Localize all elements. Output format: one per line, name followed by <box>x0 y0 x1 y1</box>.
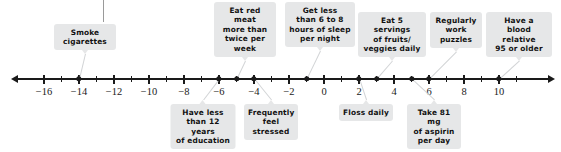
callout-line: veggies daily <box>362 44 422 54</box>
callout-box: Eat 5 servingsof fruits/veggies daily <box>358 12 426 57</box>
callout-box: Have lessthan 12 yearsof education <box>171 104 236 149</box>
number-line-figure: −16−14−12−10−8−6−4−20246810 Smokecigaret… <box>0 0 561 152</box>
data-point-dot <box>496 76 501 81</box>
callout-line: Smoke <box>58 28 112 38</box>
axis-tick-label: −14 <box>71 86 87 97</box>
callout-line: per night <box>289 34 351 44</box>
axis-tick-minor <box>96 76 97 82</box>
callout-line: Floss daily <box>343 108 389 118</box>
axis-left-arrow-icon <box>11 75 18 83</box>
axis-tick-minor <box>271 76 272 82</box>
callout-line: Frequently <box>248 108 294 118</box>
callout-tail-icon <box>317 47 323 51</box>
axis-tick-label: −2 <box>283 86 294 97</box>
axis-tick-minor <box>131 76 132 82</box>
callout-line: 95 or older <box>490 44 548 54</box>
axis-tick-label: −16 <box>36 86 52 97</box>
callout-line: hours of sleep <box>289 25 351 35</box>
data-point-dot <box>374 76 379 81</box>
callout-line: week <box>218 44 272 54</box>
axis-tick-label: −8 <box>178 86 189 97</box>
axis-tick-major <box>393 75 394 84</box>
axis-tick-label: 2 <box>356 86 361 97</box>
axis-tick-major <box>148 75 149 84</box>
axis-tick-minor <box>61 76 62 82</box>
callout-tail-icon <box>453 48 459 52</box>
axis-tick-label: 8 <box>461 86 466 97</box>
top-rule-divider <box>103 0 104 22</box>
data-point-dot <box>426 76 431 81</box>
callout-box: Eat red meatmore thantwice perweek <box>214 2 276 57</box>
axis-tick-major <box>288 75 289 84</box>
callout-line: stressed <box>248 127 294 137</box>
callout-box: Have ablood relative95 or older <box>486 12 552 57</box>
callout-box: Regularlyworkpuzzles <box>430 12 482 48</box>
axis-tick-major <box>323 75 324 84</box>
callout-leader-line <box>307 51 321 79</box>
callout-line: cigarettes <box>58 37 112 47</box>
callout-leader-line <box>79 54 86 79</box>
callout-line: per day <box>411 136 457 146</box>
callout-box: Get lessthan 6 to 8hours of sleepper nig… <box>285 2 355 47</box>
callout-box: Smokecigarettes <box>54 24 116 50</box>
callout-line: of education <box>175 136 232 146</box>
axis-tick-label: 0 <box>321 86 326 97</box>
callout-line: work <box>434 25 478 35</box>
callout-line: Get less <box>289 6 351 16</box>
callout-line: Eat 5 servings <box>362 16 422 35</box>
axis-tick-minor <box>341 76 342 82</box>
axis-tick-minor <box>516 76 517 82</box>
callout-tail-icon <box>82 50 88 54</box>
callout-leader-line <box>377 61 393 80</box>
axis-tick-major <box>113 75 114 84</box>
axis-tick-label: −10 <box>141 86 157 97</box>
data-point-dot <box>76 76 81 81</box>
callout-tail-icon <box>516 57 522 61</box>
axis-tick-label: 4 <box>391 86 396 97</box>
axis-tick-minor <box>481 76 482 82</box>
callout-tail-icon <box>268 100 274 104</box>
callout-tail-icon <box>200 100 206 104</box>
axis-tick-label: −4 <box>248 86 259 97</box>
callout-line: than 6 to 8 <box>289 15 351 25</box>
callout-leader-line <box>429 52 457 80</box>
data-point-dot <box>304 76 309 81</box>
data-point-dot <box>234 76 239 81</box>
callout-line: puzzles <box>434 35 478 45</box>
callout-line: feel <box>248 117 294 127</box>
callout-line: Regularly <box>434 16 478 26</box>
axis-tick-major <box>43 75 44 84</box>
axis-tick-minor <box>166 76 167 82</box>
data-point-dot <box>216 76 221 81</box>
callout-line: twice per <box>218 34 272 44</box>
axis-tick-minor <box>446 76 447 82</box>
axis-tick-label: −6 <box>213 86 224 97</box>
callout-box: Frequentlyfeelstressed <box>244 104 298 140</box>
callout-line: more than <box>218 25 272 35</box>
callout-tail-icon <box>363 100 369 104</box>
callout-line: blood relative <box>490 25 548 44</box>
callout-box: Floss daily <box>339 104 393 121</box>
axis-tick-label: −12 <box>106 86 122 97</box>
callout-tail-icon <box>389 57 395 61</box>
axis-tick-major <box>183 75 184 84</box>
callout-line: Take 81 mg <box>411 108 457 127</box>
callout-line: Have a <box>490 16 548 26</box>
axis-tick-label: 10 <box>494 86 505 97</box>
callout-line: of fruits/ <box>362 35 422 45</box>
axis-tick-major <box>463 75 464 84</box>
axis-tick-minor <box>201 76 202 82</box>
callout-tail-icon <box>242 57 248 61</box>
callout-tail-icon <box>431 100 437 104</box>
callout-line: Have less <box>175 108 232 118</box>
callout-line: Eat red meat <box>218 6 272 25</box>
callout-line: than 12 years <box>175 117 232 136</box>
callout-box: Take 81 mgof aspirinper day <box>407 104 461 149</box>
axis-right-arrow-icon <box>548 75 555 83</box>
callout-line: of aspirin <box>411 127 457 137</box>
axis-line <box>18 78 548 79</box>
